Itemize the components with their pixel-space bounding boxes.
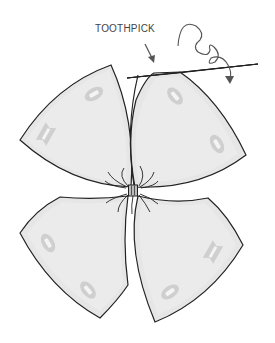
petal-bottom-right bbox=[134, 196, 243, 322]
petal-bottom-left bbox=[20, 196, 128, 318]
spiral-arrow-icon bbox=[178, 24, 234, 84]
diagram-canvas bbox=[0, 0, 275, 343]
toothpick bbox=[127, 64, 258, 78]
pointer-arrow-icon bbox=[145, 44, 155, 63]
petal-top-left bbox=[20, 65, 132, 187]
toothpick-label: TOOTHPICK bbox=[95, 23, 155, 34]
petal-top-right bbox=[131, 72, 246, 187]
